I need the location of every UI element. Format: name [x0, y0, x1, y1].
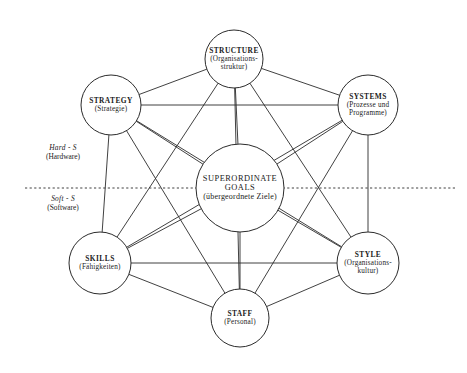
side-label-tag-hard-s: Hard - S — [25, 143, 101, 152]
edge-structure-strategy — [139, 69, 207, 94]
edge-systems-goals — [277, 121, 343, 164]
edge-strategy-skills — [102, 135, 109, 232]
node-circle-style[interactable] — [337, 232, 399, 294]
node-circle-strategy[interactable] — [81, 75, 141, 135]
node-circle-systems[interactable] — [338, 75, 398, 135]
node-circle-staff[interactable] — [211, 289, 269, 347]
node-circle-skills[interactable] — [69, 232, 131, 294]
side-label-sub-hard-s: (Hardware) — [25, 152, 101, 161]
edge-style-goals — [278, 210, 341, 247]
side-label-tag-soft-s: Soft - S — [25, 194, 101, 203]
seven-s-diagram — [0, 0, 467, 373]
node-circle-structure[interactable] — [205, 30, 263, 88]
node-circle-goals[interactable] — [196, 144, 284, 232]
edge-structure-systems — [261, 68, 339, 95]
side-label-sub-soft-s: (Software) — [25, 203, 101, 212]
side-label-hard-s: Hard - S(Hardware) — [25, 143, 101, 162]
diagram-canvas: STRUCTURE(Organisations-struktur)STRATEG… — [0, 0, 467, 373]
node-circle-layer — [69, 30, 399, 347]
side-label-soft-s: Soft - S(Software) — [25, 194, 101, 213]
edge-skills-goals — [127, 209, 201, 249]
edge-style-staff — [267, 275, 340, 306]
edge-skills-staff — [129, 274, 213, 307]
